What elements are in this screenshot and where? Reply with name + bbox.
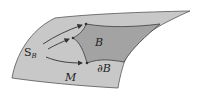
point-bottom <box>86 62 89 65</box>
label-region: B <box>94 36 103 49</box>
region-b <box>73 24 160 63</box>
label-manifold: M <box>64 71 77 84</box>
point-mid <box>72 37 75 40</box>
manifold-diagram: SB B ∂B M <box>0 0 204 97</box>
point-top <box>85 23 88 26</box>
label-boundary: ∂B <box>97 62 111 75</box>
